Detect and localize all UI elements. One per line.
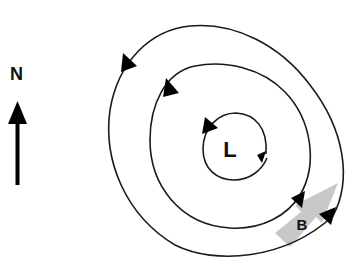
middle-arrow-icon <box>163 78 179 97</box>
north-indicator: N <box>8 64 27 185</box>
point-b-label: B <box>297 216 308 233</box>
north-arrow-shaft <box>16 122 20 185</box>
cyclone-diagram: N L B <box>0 0 364 280</box>
low-pressure-label: L <box>223 137 236 162</box>
north-label: N <box>10 64 23 84</box>
north-arrow-head-icon <box>8 101 27 124</box>
